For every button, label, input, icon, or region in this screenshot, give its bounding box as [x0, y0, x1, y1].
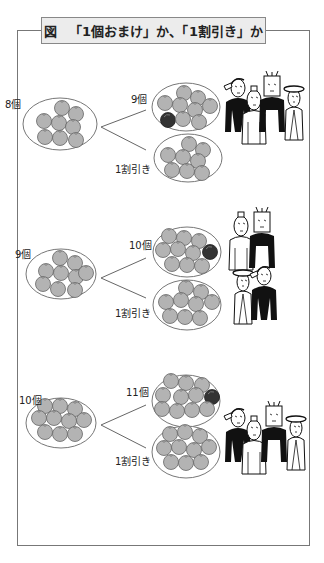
row-1: [23, 71, 304, 182]
row-2-bonus-label: 10個: [129, 237, 152, 252]
row-1-base-label: 8個: [5, 96, 21, 111]
bonus-oranges: [155, 374, 220, 419]
row-1-bonus-label: 9個: [131, 91, 147, 106]
branch-lines: [101, 405, 146, 448]
row-3: [26, 374, 306, 479]
row-1-discount-label: 1割引き: [115, 161, 151, 176]
diagram-canvas: [0, 0, 324, 563]
people-group-bonus: [224, 71, 304, 144]
row-3-bonus-label: 11個: [126, 384, 149, 399]
row-3-base-label: 10個: [19, 392, 42, 407]
row-2-discount-label: 1割引き: [115, 305, 151, 320]
row-3-discount-label: 1割引き: [115, 453, 151, 468]
people-group-discount: [233, 267, 277, 324]
branch-lines: [101, 110, 146, 150]
people-group-bonus: [224, 401, 306, 474]
people-group-bonus: [229, 207, 275, 270]
row-2-base-label: 9個: [15, 246, 31, 261]
branch-lines: [101, 258, 146, 298]
row-2: [26, 207, 277, 330]
